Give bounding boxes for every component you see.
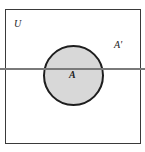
set-a-label: A	[69, 70, 76, 80]
complement-label: A'	[114, 40, 122, 50]
universe-label: U	[14, 19, 21, 29]
